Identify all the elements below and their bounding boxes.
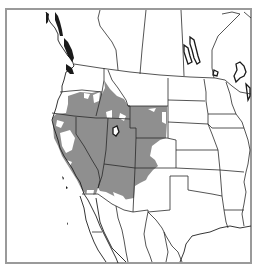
range-gap xyxy=(162,112,166,124)
map-svg xyxy=(0,0,257,273)
range-map: Distribution range map of western North … xyxy=(0,0,257,273)
range-gap xyxy=(86,190,94,196)
